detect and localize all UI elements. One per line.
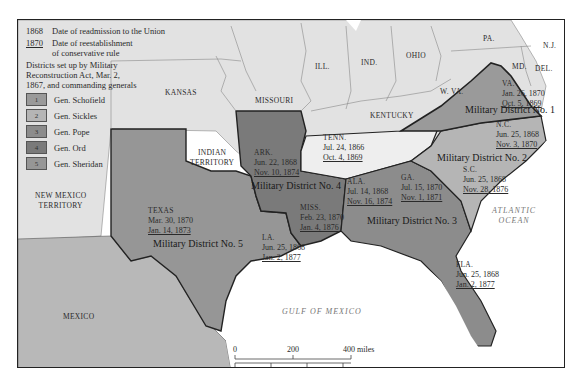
- state-miss: MISS. Feb. 23, 1870 Jan. 4, 1876: [300, 203, 344, 233]
- label-line: TERRITORY: [35, 201, 86, 211]
- map-frame: 1868 Date of readmission to the Union 18…: [17, 19, 565, 368]
- scale-lines: [231, 345, 451, 368]
- label-line: NEW MEXICO: [35, 191, 86, 201]
- legend: 1868 Date of readmission to the Union 18…: [26, 26, 206, 173]
- label-gulf-of-mexico: GULF OF MEXICO: [282, 307, 362, 317]
- district-swatch: 3: [26, 125, 47, 138]
- label-kansas: KANSAS: [165, 88, 197, 98]
- readmission-date: Jun. 25, 1868: [496, 130, 539, 140]
- label-kentucky: KENTUCKY: [370, 111, 414, 121]
- state-name: ARK.: [254, 148, 299, 158]
- label-missouri: MISSOURI: [255, 96, 293, 106]
- label-md: MD.: [512, 62, 527, 72]
- legend-general-2: 2 Gen. Sickles: [26, 109, 206, 122]
- state-name: FLA.: [456, 260, 499, 270]
- state-tenn: TENN. Jul. 24, 1866 Oct. 4, 1869: [323, 133, 364, 163]
- conservative-date: Oct. 4, 1869: [323, 153, 364, 163]
- district-4-label: Military District No. 4: [251, 181, 341, 191]
- readmission-date: Mar. 30, 1870: [148, 216, 193, 226]
- legend-general-5: 5 Gen. Sheridan: [26, 157, 206, 170]
- conservative-date: Jan. 2, 1877: [456, 280, 499, 290]
- legend-conservative: 1870 Date of reestablishment of conserva…: [26, 38, 206, 58]
- conservative-date: Nov. 10, 1874: [254, 168, 299, 178]
- state-name: ALA.: [347, 177, 392, 187]
- district-2-label: Military District No. 2: [437, 153, 527, 163]
- readmission-date: Jun. 25, 1868: [456, 270, 499, 280]
- state-nc: N.C. Jun. 25, 1868 Nov. 3, 1870: [496, 120, 539, 150]
- state-name: VA.: [502, 79, 545, 89]
- conservative-date: Jan. 4, 1876: [300, 223, 344, 233]
- readmission-date: Jun. 25, 1868: [463, 175, 508, 185]
- label-nj: N.J.: [543, 41, 556, 51]
- district-3-label: Military District No. 3: [367, 216, 457, 226]
- legend-year: 1870: [26, 38, 48, 48]
- legend-title-line: Reconstruction Act, Mar. 2,: [26, 70, 206, 80]
- readmission-date: Jun. 25, 1868: [262, 243, 305, 253]
- readmission-date: Feb. 23, 1870: [300, 213, 344, 223]
- label-wva: W. VA.: [440, 87, 464, 97]
- legend-readmission: 1868 Date of readmission to the Union: [26, 26, 206, 36]
- label-atlantic-ocean: ATLANTIC OCEAN: [492, 206, 536, 226]
- conservative-date: Nov. 28, 1876: [463, 185, 508, 195]
- legend-text: Date of reestablishment: [52, 38, 133, 48]
- district-swatch: 5: [26, 157, 47, 170]
- district-swatch: 4: [26, 141, 47, 154]
- legend-generals: 1 Gen. Schofield 2 Gen. Sickles 3 Gen. P…: [26, 93, 206, 170]
- legend-text: of conservative rule: [52, 48, 120, 58]
- state-name: N.C.: [496, 120, 539, 130]
- district-swatch: 2: [26, 109, 47, 122]
- conservative-date: Nov. 16, 1874: [347, 197, 392, 207]
- label-line: ATLANTIC: [492, 206, 536, 216]
- legend-year: 1868: [26, 26, 48, 36]
- scale-bar: 0 200 400 miles 0 200 400 600 kilometers: [231, 345, 451, 368]
- label-line: INDIAN: [190, 148, 234, 158]
- conservative-date: Jan. 2, 1877: [262, 253, 305, 263]
- legend-text: Date of readmission to the Union: [52, 26, 165, 36]
- label-ill: ILL.: [315, 62, 330, 72]
- state-name: TENN.: [323, 133, 364, 143]
- readmission-date: Jan. 26, 1870: [502, 89, 545, 99]
- state-name: GA.: [401, 173, 442, 183]
- district-1-label: Military District No. 1: [465, 105, 555, 115]
- legend-districts-title: Districts set up by Military Reconstruct…: [26, 60, 206, 90]
- readmission-date: Jul. 15, 1870: [401, 183, 442, 193]
- legend-title-line: Districts set up by Military: [26, 60, 206, 70]
- state-sc: S.C. Jun. 25, 1868 Nov. 28, 1876: [463, 165, 508, 195]
- state-name: LA.: [262, 233, 305, 243]
- state-texas: TEXAS Mar. 30, 1870 Jan. 14, 1873: [148, 206, 193, 236]
- state-la: LA. Jun. 25, 1868 Jan. 2, 1877: [262, 233, 305, 263]
- general-name: Gen. Sickles: [54, 111, 97, 121]
- legend-general-4: 4 Gen. Ord: [26, 141, 206, 154]
- state-name: MISS.: [300, 203, 344, 213]
- readmission-date: Jul. 24, 1866: [323, 143, 364, 153]
- state-name: TEXAS: [148, 206, 193, 216]
- general-name: Gen. Pope: [54, 127, 89, 137]
- district-swatch: 1: [26, 93, 47, 106]
- state-fla: FLA. Jun. 25, 1868 Jan. 2, 1877: [456, 260, 499, 290]
- general-name: Gen. Schofield: [54, 95, 105, 105]
- label-indian-territory: INDIAN TERRITORY: [190, 148, 234, 168]
- general-name: Gen. Sheridan: [54, 159, 103, 169]
- label-del: DEL.: [535, 64, 553, 74]
- district-5-label: Military District No. 5: [153, 239, 243, 249]
- label-line: OCEAN: [492, 216, 536, 226]
- label-new-mexico: NEW MEXICO TERRITORY: [35, 191, 86, 211]
- readmission-date: Jul. 14, 1868: [347, 187, 392, 197]
- legend-general-3: 3 Gen. Pope: [26, 125, 206, 138]
- readmission-date: Jun. 22, 1868: [254, 158, 299, 168]
- general-name: Gen. Ord: [54, 143, 86, 153]
- state-ala: ALA. Jul. 14, 1868 Nov. 16, 1874: [347, 177, 392, 207]
- conservative-date: Nov. 1, 1871: [401, 193, 442, 203]
- state-name: S.C.: [463, 165, 508, 175]
- label-line: TERRITORY: [190, 158, 234, 168]
- label-ind: IND.: [361, 58, 377, 68]
- conservative-date: Nov. 3, 1870: [496, 140, 539, 150]
- label-pa: PA.: [483, 34, 495, 44]
- state-ga: GA. Jul. 15, 1870 Nov. 1, 1871: [401, 173, 442, 203]
- state-ark: ARK. Jun. 22, 1868 Nov. 10, 1874: [254, 148, 299, 178]
- conservative-date: Jan. 14, 1873: [148, 226, 193, 236]
- label-ohio: OHIO: [406, 51, 426, 61]
- label-mexico: MEXICO: [63, 312, 94, 322]
